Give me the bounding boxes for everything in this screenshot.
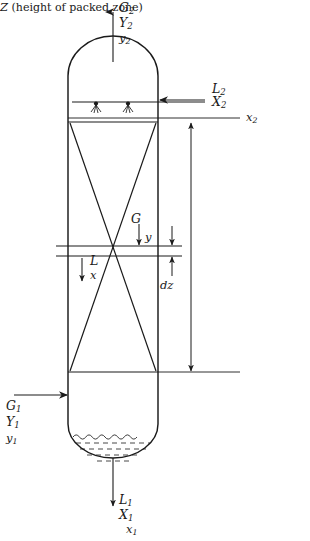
element-liquid-flow-label: L (90, 255, 98, 268)
diagram-canvas: G2 Y2 y2 L2 X2 x2 Z (height of packed zo… (0, 0, 310, 541)
gas-in-flow-label: G1 (6, 400, 21, 414)
gas-in-ratio-label: Y1 (6, 416, 20, 430)
liquid-sump (73, 435, 150, 461)
element-liquid-fraction-label: x (90, 270, 97, 282)
gas-out-ratio-label: Y2 (119, 17, 133, 31)
column-schematic (0, 0, 310, 541)
liquid-in-ratio-label: X2 (212, 96, 226, 110)
differential-element-dz (56, 246, 182, 256)
liquid-out-fraction-label: x1 (126, 524, 137, 537)
spray-nozzle-left (91, 101, 101, 113)
liquid-distributor (72, 100, 205, 113)
dz-label: dz (160, 280, 173, 292)
liquid-out-ratio-label: X1 (119, 509, 133, 523)
gas-out-fraction-label: y2 (119, 33, 130, 46)
packed-zone (68, 122, 158, 372)
liquid-out-flow-label: L1 (119, 494, 133, 508)
liquid-in-fraction-label: x2 (246, 112, 257, 125)
element-gas-fraction-label: y (145, 232, 152, 244)
element-gas-flow-label: G (131, 213, 141, 226)
gas-out-flow-label: G2 (119, 2, 134, 16)
gas-in-fraction-label: y1 (6, 433, 17, 446)
spray-nozzle-right (123, 101, 133, 113)
